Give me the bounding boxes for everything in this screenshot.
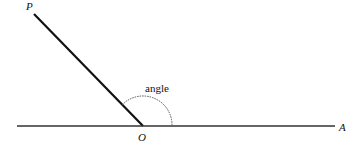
ray-op [34,14,143,126]
angle-diagram: P O A angle [0,0,363,145]
point-label-p: P [25,0,33,12]
angle-label: angle [145,82,169,94]
point-label-o: O [138,131,146,143]
point-label-a: A [338,121,346,133]
